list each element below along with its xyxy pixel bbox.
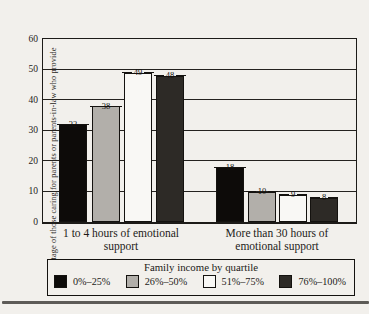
category-label-2: More than 30 hours of emotional support xyxy=(207,227,347,253)
bar-value: 8 xyxy=(320,193,328,202)
label-leader-line xyxy=(79,124,89,125)
label-leader-line xyxy=(310,197,320,198)
label-leader-line xyxy=(122,72,132,73)
legend-swatch xyxy=(203,275,216,288)
bottom-rule xyxy=(2,301,369,304)
legend-label: 26%–50% xyxy=(145,276,187,287)
bar-value: 38 xyxy=(100,102,113,111)
bar-51%–75%-group1 xyxy=(124,73,152,222)
label-leader-line xyxy=(176,75,186,76)
legend-item: 76%–100% xyxy=(279,275,346,288)
bar-value-label: 48 xyxy=(139,70,201,81)
label-leader-line xyxy=(214,167,224,168)
bar-0%–25%-group1 xyxy=(59,124,87,222)
bar-value-label: 32 xyxy=(42,119,104,130)
bar-value-label: 38 xyxy=(75,101,137,112)
legend-swatch xyxy=(279,275,292,288)
bar-value: 48 xyxy=(164,71,177,80)
legend-label: 51%–75% xyxy=(222,276,264,287)
label-leader-line xyxy=(57,124,67,125)
y-tick-label-30: 30 xyxy=(10,125,38,136)
label-leader-line xyxy=(112,106,122,107)
legend-title: Family income by quartile xyxy=(48,261,354,274)
legend-swatch xyxy=(54,275,67,288)
y-tick-label-0: 0 xyxy=(10,217,38,228)
y-tick-label-40: 40 xyxy=(10,95,38,106)
plot-area: Percentage of those caring for parents o… xyxy=(42,38,357,224)
y-tick-label-10: 10 xyxy=(10,186,38,197)
bar-value-label: 18 xyxy=(199,162,261,173)
bar-value: 32 xyxy=(67,120,80,129)
label-leader-line xyxy=(236,167,246,168)
figure: Percentage of those caring for parents o… xyxy=(0,0,369,314)
y-tick-label-50: 50 xyxy=(10,64,38,75)
bar-76%–100%-group1 xyxy=(156,76,184,222)
bar-value: 18 xyxy=(224,163,237,172)
category-label-1: 1 to 4 hours of emotional support xyxy=(51,227,191,253)
y-tick-label-20: 20 xyxy=(10,156,38,167)
label-leader-line xyxy=(279,194,289,195)
label-leader-line xyxy=(90,106,100,107)
label-leader-line xyxy=(154,75,164,76)
label-leader-line xyxy=(246,191,256,192)
bar-value-label: 8 xyxy=(293,192,355,203)
legend-items: 0%–25%26%–50%51%–75%76%–100% xyxy=(48,274,354,288)
label-leader-line xyxy=(328,197,338,198)
legend-item: 26%–50% xyxy=(126,275,187,288)
legend-label: 0%–25% xyxy=(73,276,110,287)
legend-box: Family income by quartile 0%–25%26%–50%5… xyxy=(47,259,355,296)
y-tick-label-60: 60 xyxy=(10,34,38,45)
legend-swatch xyxy=(126,275,139,288)
legend-item: 0%–25% xyxy=(54,275,110,288)
legend-item: 51%–75% xyxy=(203,275,264,288)
legend-label: 76%–100% xyxy=(298,276,346,287)
